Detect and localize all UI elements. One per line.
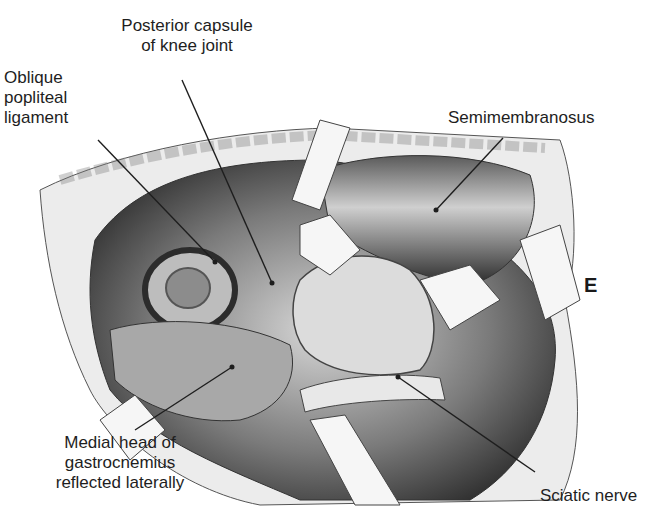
- posterior-capsule: [293, 256, 434, 375]
- panel-letter: E: [584, 274, 597, 297]
- label-line: Semimembranosus: [448, 108, 594, 128]
- label-oblique-popliteal-ligament: Oblique popliteal ligament: [4, 68, 68, 128]
- label-line: reflected laterally: [30, 473, 210, 493]
- label-line: Medial head of: [30, 433, 210, 453]
- label-sciatic-nerve: Sciatic nerve: [540, 486, 637, 506]
- label-line: popliteal: [4, 88, 68, 108]
- label-semimembranosus: Semimembranosus: [448, 108, 594, 128]
- label-line: gastrocnemius: [30, 453, 210, 473]
- label-line: Oblique: [4, 68, 68, 88]
- label-posterior-capsule: Posterior capsule of knee joint: [97, 16, 277, 56]
- label-line: of knee joint: [97, 36, 277, 56]
- label-line: Posterior capsule: [97, 16, 277, 36]
- label-medial-head-gastrocnemius: Medial head of gastrocnemius reflected l…: [30, 433, 210, 493]
- label-line: Sciatic nerve: [540, 486, 637, 506]
- label-line: ligament: [4, 108, 68, 128]
